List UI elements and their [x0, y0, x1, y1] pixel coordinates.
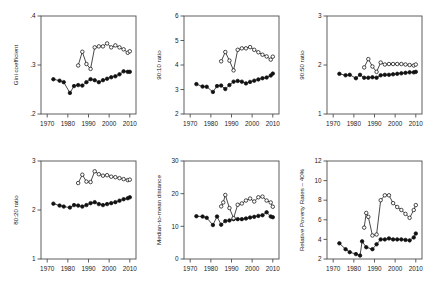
- data-point-hollow: [122, 177, 126, 181]
- data-point-filled: [211, 90, 215, 94]
- data-point-hollow: [118, 176, 122, 180]
- data-point-filled: [240, 217, 244, 221]
- x-tick-label: 2010: [409, 265, 424, 272]
- data-point-hollow: [219, 60, 223, 64]
- data-point-filled: [58, 79, 62, 83]
- plot-frame: [41, 16, 136, 114]
- data-point-hollow: [371, 65, 375, 69]
- data-point-filled: [383, 238, 387, 242]
- data-point-hollow: [224, 50, 228, 54]
- data-point-filled: [367, 76, 371, 80]
- data-point-hollow: [383, 194, 387, 198]
- data-point-filled: [358, 254, 362, 258]
- data-point-filled: [244, 82, 248, 86]
- data-point-filled: [93, 200, 97, 204]
- data-point-hollow: [271, 55, 275, 59]
- data-point-hollow: [244, 47, 248, 51]
- data-point-hollow: [387, 194, 391, 198]
- y-tick-label: .4: [30, 12, 36, 19]
- data-point-filled: [395, 72, 399, 76]
- data-point-hollow: [93, 46, 97, 50]
- data-point-filled: [391, 238, 395, 242]
- data-point-hollow: [408, 63, 412, 67]
- y-axis-label: Median-to-mean distance: [155, 175, 162, 245]
- data-point-filled: [344, 74, 348, 78]
- data-point-hollow: [232, 216, 236, 220]
- data-point-filled: [383, 73, 387, 77]
- data-point-filled: [128, 70, 132, 74]
- x-tick-label: 2000: [388, 120, 403, 127]
- y-axis-label: 80:20 ratio: [12, 195, 19, 224]
- x-tick-label: 1990: [81, 120, 96, 127]
- data-point-filled: [122, 197, 126, 201]
- data-point-hollow: [265, 55, 269, 59]
- data-point-filled: [93, 78, 97, 82]
- data-point-filled: [265, 76, 269, 80]
- data-point-hollow: [236, 48, 240, 52]
- x-tick-label: 2000: [102, 120, 117, 127]
- data-point-filled: [387, 237, 391, 241]
- data-point-filled: [360, 240, 364, 244]
- data-point-hollow: [261, 53, 265, 57]
- y-tick-label: 2: [318, 61, 322, 68]
- y-tick-label: .2: [30, 110, 36, 117]
- data-point-filled: [101, 78, 105, 82]
- y-axis-label: 90:10 ratio: [155, 50, 162, 79]
- x-tick-label: 2000: [245, 120, 260, 127]
- data-point-filled: [105, 202, 109, 206]
- data-point-filled: [109, 201, 113, 205]
- data-point-filled: [81, 84, 85, 88]
- y-axis-label: Gini coefficient: [12, 45, 19, 85]
- data-point-filled: [109, 76, 113, 80]
- data-point-filled: [236, 79, 240, 83]
- y-tick-label: 30: [171, 157, 179, 164]
- data-point-filled: [348, 73, 352, 77]
- data-point-filled: [97, 202, 101, 206]
- x-tick-label: 1990: [224, 120, 239, 127]
- data-point-hollow: [105, 173, 109, 177]
- data-point-hollow: [97, 172, 101, 176]
- data-point-hollow: [118, 46, 122, 50]
- data-point-hollow: [412, 208, 416, 212]
- data-point-filled: [205, 85, 209, 89]
- data-point-hollow: [252, 48, 256, 52]
- data-point-hollow: [219, 205, 223, 209]
- y-tick-label: 4: [175, 61, 179, 68]
- y-tick-label: 3: [32, 157, 36, 164]
- data-point-filled: [101, 203, 105, 207]
- data-point-hollow: [391, 62, 395, 66]
- data-point-hollow: [228, 206, 232, 210]
- x-tick-label: 1970: [183, 265, 198, 272]
- data-point-filled: [371, 76, 375, 80]
- data-point-hollow: [383, 63, 387, 67]
- data-point-hollow: [391, 201, 395, 205]
- data-point-filled: [219, 84, 223, 88]
- data-point-filled: [105, 77, 109, 81]
- series-line-hollow: [364, 195, 416, 235]
- data-point-filled: [118, 199, 122, 203]
- data-point-hollow: [105, 42, 109, 46]
- data-point-filled: [375, 76, 379, 80]
- data-point-filled: [195, 214, 199, 218]
- data-point-filled: [201, 85, 205, 89]
- x-tick-label: 2000: [388, 265, 403, 272]
- data-point-hollow: [367, 57, 371, 61]
- data-point-hollow: [400, 62, 404, 66]
- data-point-filled: [62, 80, 66, 84]
- data-point-filled: [257, 78, 261, 82]
- data-point-filled: [358, 73, 362, 77]
- data-point-filled: [400, 238, 404, 242]
- data-point-filled: [338, 72, 342, 76]
- data-point-filled: [114, 75, 118, 79]
- data-point-filled: [52, 77, 56, 81]
- data-point-hollow: [269, 201, 273, 205]
- data-point-filled: [85, 80, 89, 84]
- data-point-hollow: [257, 196, 261, 200]
- data-point-hollow: [236, 203, 240, 207]
- chart-panel-relative-poverty-40: 2468101219701980199020002010Relative Pov…: [286, 145, 429, 290]
- data-point-filled: [248, 216, 252, 220]
- data-point-filled: [81, 205, 85, 209]
- x-tick-label: 2000: [102, 265, 117, 272]
- data-point-hollow: [248, 45, 252, 49]
- data-point-filled: [52, 202, 56, 206]
